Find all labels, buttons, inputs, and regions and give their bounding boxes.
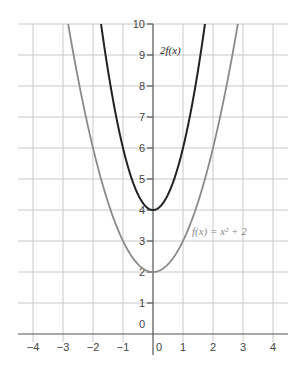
x-tick-label: −3 — [57, 341, 70, 353]
y-tick-label: 3 — [139, 235, 145, 247]
axes — [18, 24, 288, 355]
y-tick-label: 7 — [139, 111, 145, 123]
curve-labels: 2f(x)f(x) = x² + 2 — [160, 44, 247, 238]
x-tick-label: −2 — [87, 341, 100, 353]
y-tick-label: 9 — [139, 49, 145, 61]
y-tick-label: 0 — [139, 318, 145, 330]
function-graph: −4−3−2−101234012345678910 2f(x)f(x) = x²… — [0, 0, 302, 371]
x-tick-label: −1 — [117, 341, 130, 353]
x-tick-label: 4 — [270, 341, 276, 353]
y-tick-label: 6 — [139, 142, 145, 154]
y-tick-label: 8 — [139, 80, 145, 92]
y-tick-label: 10 — [133, 18, 145, 30]
x-tick-label: −4 — [27, 341, 40, 353]
x-tick-label: 0 — [156, 341, 162, 353]
x-tick-label: 2 — [210, 341, 216, 353]
label-2f-x: 2f(x) — [160, 44, 181, 57]
x-tick-label: 1 — [180, 341, 186, 353]
y-tick-label: 1 — [139, 297, 145, 309]
x-tick-label: 3 — [240, 341, 246, 353]
label-f-x: f(x) = x² + 2 — [192, 225, 247, 238]
y-tick-label: 5 — [139, 173, 145, 185]
